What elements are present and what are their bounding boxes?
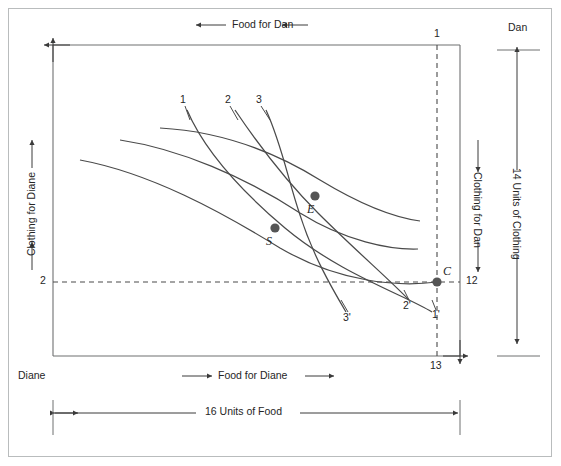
curve-label-diane-1: 1 (180, 94, 186, 105)
curve-label-dan-1prime: 1' (432, 309, 440, 320)
origin-label-diane: Diane (18, 370, 45, 381)
curve-label-dan-3prime: 3' (343, 312, 351, 323)
point-C (432, 277, 441, 286)
axis-label-bottom: Food for Diane (218, 370, 287, 381)
axis-label-top: Food for Dan (232, 19, 293, 30)
tick-label-left-lower: 2 (40, 275, 46, 286)
point-S (270, 223, 279, 232)
dimension-label-width: 16 Units of Food (205, 406, 282, 417)
origin-label-dan: Dan (508, 22, 527, 33)
edgeworth-box-figure: Food for Dan Food for Diane Clothing for… (0, 0, 561, 466)
curve-label-dan-2prime: 2' (403, 300, 411, 311)
point-label-S: S (266, 235, 272, 248)
dimension-label-height: 14 Units of Clothing (511, 168, 522, 260)
dan-curve-2prime (235, 110, 409, 300)
endowment-dashed-lines (53, 45, 460, 356)
point-E (310, 191, 319, 200)
diane-indifference-curves (80, 128, 437, 284)
axis-label-left: Clothing for Diane (26, 172, 37, 256)
curve-label-diane-2: 2 (225, 94, 231, 105)
tick-label-right-lower: 12 (466, 275, 478, 286)
tick-label-top-right: 1 (434, 28, 440, 39)
tick-label-bottom-right: 13 (430, 360, 442, 371)
point-label-E: E (307, 203, 314, 216)
point-label-C: C (443, 265, 451, 278)
diane-curve-1 (80, 160, 437, 284)
axis-label-right: Clothing for Dan (472, 172, 483, 248)
edgeworth-box-rect (53, 45, 460, 356)
origin-arrow-ticks (44, 38, 468, 364)
curve-label-diane-3: 3 (256, 94, 262, 105)
